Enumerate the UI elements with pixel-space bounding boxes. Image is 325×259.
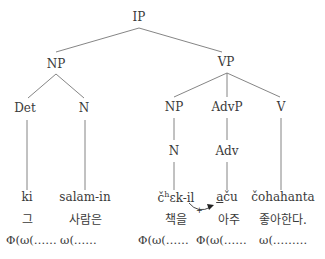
node-np-object: NP xyxy=(165,100,184,114)
word-chaek-il-pre: č xyxy=(158,191,165,205)
node-v: V xyxy=(277,100,286,114)
prosody-4: Φ(ω(…… xyxy=(196,233,247,247)
prosody-2: ω(…… xyxy=(60,233,97,247)
word-achu-post: ču xyxy=(223,190,237,204)
node-det: Det xyxy=(14,101,36,115)
word-chaek-il: čhɛk-il xyxy=(158,190,195,205)
korean-achu: 아주 xyxy=(218,210,240,227)
word-chohahanta: čohahanta xyxy=(251,190,314,204)
korean-ki: 그 xyxy=(22,210,33,227)
word-chaek-il-post: ɛk-il xyxy=(169,191,194,205)
node-ip: IP xyxy=(133,10,146,24)
prosody-5: ω(……… xyxy=(259,233,307,247)
node-vp: VP xyxy=(218,55,235,69)
prosody-1: Φ(ω(…… xyxy=(6,233,57,247)
svg-text:+: + xyxy=(196,206,203,215)
korean-chaek-il: 책을 xyxy=(165,210,187,227)
node-np-subject: NP xyxy=(47,57,66,71)
node-adv: Adv xyxy=(215,144,238,158)
node-advp: AdvP xyxy=(211,100,242,114)
word-achu: aču xyxy=(216,190,238,204)
word-ki: ki xyxy=(21,190,32,204)
korean-salam-in: 사람은 xyxy=(69,210,102,227)
node-n-subject: N xyxy=(79,101,90,115)
korean-chohahanta: 좋아한다. xyxy=(259,210,307,227)
word-salam-in: salam-in xyxy=(59,190,110,204)
node-n-object: N xyxy=(169,144,180,158)
prosody-3: Φ(ω(…… xyxy=(138,233,189,247)
